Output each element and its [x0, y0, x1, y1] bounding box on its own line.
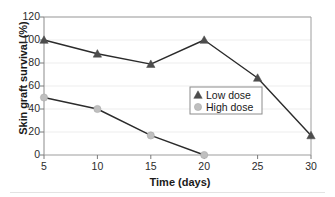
x-tick-label: 5	[29, 160, 59, 172]
legend-label[interactable]: High dose	[206, 101, 253, 113]
chart-legend[interactable]: Low doseHigh dose	[190, 87, 262, 114]
series-line	[44, 40, 311, 135]
gridlines	[44, 17, 311, 132]
x-tick-label: 15	[136, 160, 166, 172]
chart-figure: Skin graft survival (%) 020406080100120 …	[0, 0, 335, 197]
marker-circle	[94, 105, 101, 112]
axis-ticks	[40, 17, 311, 159]
data-series-layer	[40, 36, 315, 159]
x-tick-label: 25	[243, 160, 273, 172]
marker-circle	[147, 132, 154, 139]
series-line	[44, 98, 204, 156]
marker-circle	[194, 103, 201, 110]
x-tick-label: 30	[296, 160, 326, 172]
x-tick-label: 20	[189, 160, 219, 172]
footer-rule	[10, 192, 325, 193]
x-tick-label: 10	[82, 160, 112, 172]
marker-triangle	[253, 74, 261, 82]
marker-circle	[201, 151, 208, 158]
x-axis-title: Time (days)	[45, 176, 315, 188]
legend-label[interactable]: Low dose	[206, 89, 251, 101]
marker-circle	[40, 94, 47, 101]
